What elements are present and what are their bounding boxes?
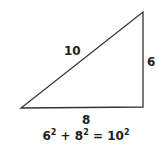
eq-equals: = bbox=[93, 129, 103, 143]
eq-a-exp: 2 bbox=[51, 128, 57, 137]
eq-a: 6 bbox=[42, 129, 50, 143]
vertical-side-label: 6 bbox=[147, 56, 155, 68]
eq-b-exp: 2 bbox=[83, 128, 89, 137]
horizontal-side-label: 8 bbox=[82, 114, 90, 126]
right-triangle bbox=[21, 12, 143, 108]
eq-c: 10 bbox=[107, 129, 124, 143]
eq-plus: + bbox=[61, 129, 71, 143]
pythagorean-equation: 62 + 82 = 102 bbox=[0, 130, 159, 142]
hypotenuse-label: 10 bbox=[64, 45, 81, 57]
eq-b: 8 bbox=[75, 129, 83, 143]
eq-c-exp: 2 bbox=[124, 128, 130, 137]
